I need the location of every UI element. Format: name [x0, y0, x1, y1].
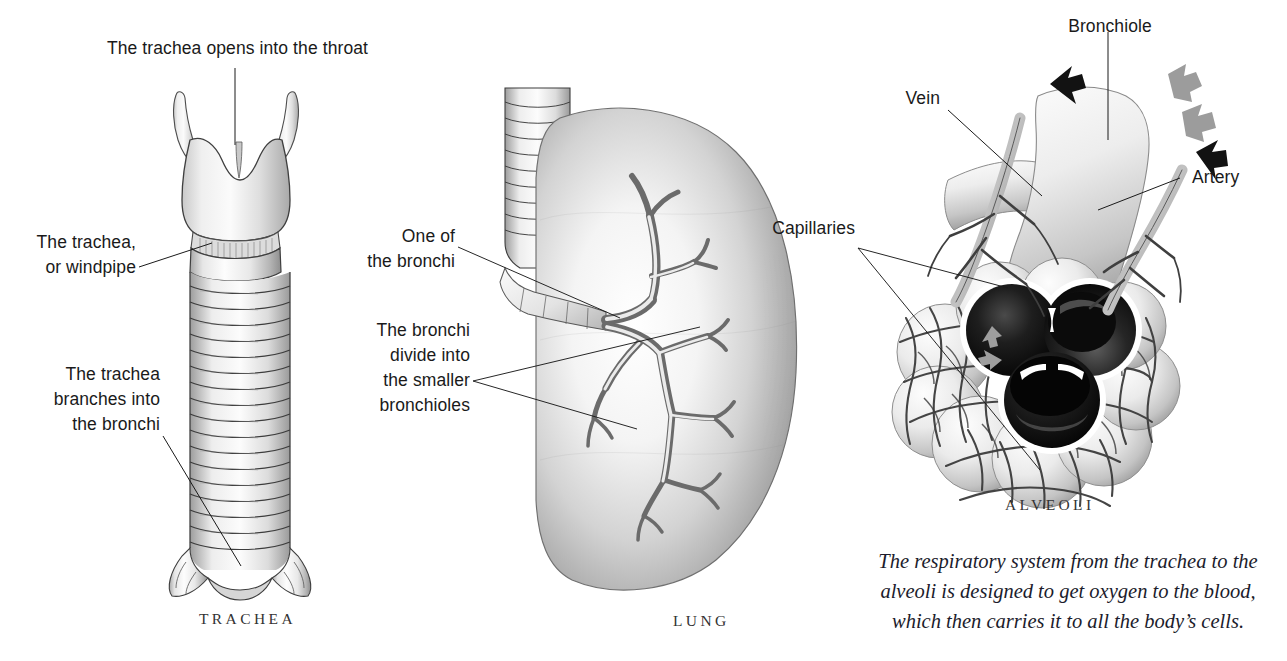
airflow-arrows — [1168, 64, 1216, 142]
label-trachea-opens-into-throat: The trachea opens into the throat — [100, 36, 375, 61]
label-trachea-or-windpipe: The trachea, or windpipe — [0, 230, 136, 280]
label-bronchi-divide-into-bronchioles: The bronchi divide into the smaller bron… — [305, 318, 470, 418]
caption-trachea: TRACHEA — [199, 610, 296, 628]
label-trachea-branches-into-bronchi: The trachea branches into the bronchi — [0, 362, 160, 437]
label-one-of-the-bronchi: One of the bronchi — [305, 224, 455, 274]
label-vein: Vein — [860, 86, 940, 111]
summary-caption: The respiratory system from the trachea … — [858, 546, 1278, 636]
trachea-illustration — [139, 68, 311, 600]
label-artery: Artery — [1192, 165, 1282, 190]
caption-alveoli: ALVEOLI — [1005, 496, 1095, 514]
label-bronchiole: Bronchiole — [1058, 14, 1162, 39]
caption-lung: LUNG — [673, 612, 730, 630]
lung-illustration — [458, 88, 800, 590]
label-capillaries: Capillaries — [740, 216, 855, 241]
respiratory-system-figure: The trachea opens into the throat The tr… — [0, 0, 1287, 661]
